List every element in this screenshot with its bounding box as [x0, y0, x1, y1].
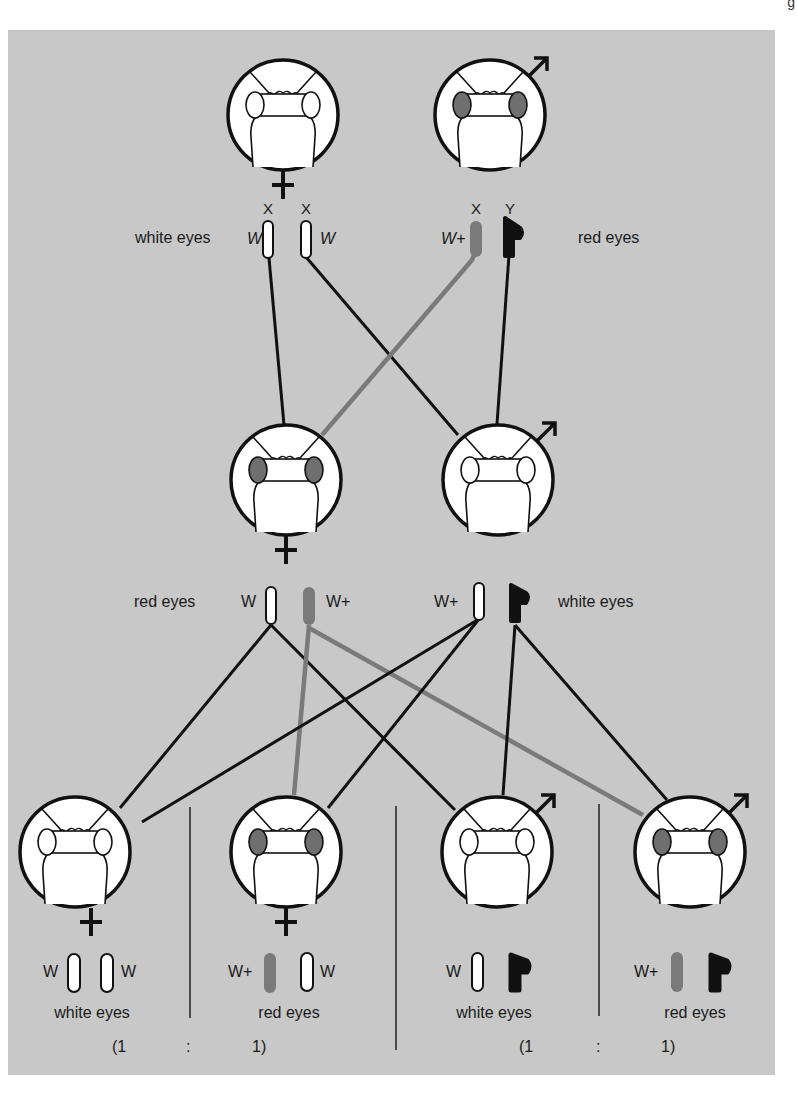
allele-label: W [320, 963, 336, 980]
y-chromosome-icon [711, 955, 729, 990]
eye-icon-white [38, 829, 56, 855]
ratio-label: 1) [661, 1038, 675, 1055]
ratio-separator: : [596, 1038, 600, 1055]
gen3-column-3: W white eyes (1 [446, 953, 533, 1055]
allele-label: W [241, 593, 257, 610]
allele-label: W [320, 230, 337, 247]
male-symbol-icon [528, 58, 547, 77]
chromosome-label-y: Y [505, 200, 515, 217]
phenotype-label: red eyes [134, 593, 195, 610]
male-symbol-icon [535, 795, 554, 814]
allele-label: W+ [441, 230, 465, 247]
female-symbol-icon [272, 171, 294, 199]
allele-label: W [446, 963, 462, 980]
allele-label: W+ [326, 593, 350, 610]
phenotype-label: red eyes [258, 1004, 319, 1021]
x-chromosome-red-icon [303, 587, 315, 625]
x-chromosome-white-icon [472, 953, 483, 991]
line-wplus-to-f2-female [322, 250, 476, 435]
inheritance-lines [120, 250, 667, 822]
female-symbol-icon [275, 536, 297, 564]
gen1-female-fly [228, 60, 338, 199]
allele-label: W+ [634, 963, 658, 980]
eye-icon-red [249, 457, 267, 483]
gen3-column-1: W W white eyes (1 [43, 954, 137, 1055]
gen2-female-fly [231, 425, 341, 564]
eye-icon-white [460, 829, 478, 855]
chromosome-label-x: X [263, 200, 273, 217]
phenotype-label: white eyes [134, 229, 211, 246]
eye-icon-white [516, 829, 534, 855]
female-symbol-icon [275, 908, 297, 936]
ratio-separator: : [186, 1038, 190, 1055]
y-chromosome-icon [511, 955, 529, 990]
ratio-label: (1 [112, 1038, 126, 1055]
gen2-chromosomes: red eyes W W+ W+ white eyes [134, 583, 634, 625]
y-chromosome-icon [505, 218, 522, 256]
allele-label: W [247, 230, 264, 247]
allele-label: W+ [228, 963, 252, 980]
allele-label: W [121, 963, 137, 980]
x-chromosome-white-icon [263, 221, 273, 258]
eye-icon-red [305, 829, 323, 855]
eye-icon-red [653, 829, 671, 855]
x-chromosome-white-icon [301, 953, 313, 991]
eye-icon-white [94, 829, 112, 855]
male-symbol-icon [536, 423, 555, 442]
allele-label: W+ [434, 593, 458, 610]
allele-label: W [43, 963, 59, 980]
y-chromosome-icon [511, 585, 528, 621]
x-chromosome-white-icon [68, 954, 80, 992]
gen1-male-fly [435, 58, 547, 170]
ratio-label: 1) [252, 1038, 266, 1055]
eye-icon-red [305, 457, 323, 483]
chromosome-label-x: X [471, 200, 481, 217]
male-symbol-icon [728, 795, 747, 814]
line-w-to-f2-female [269, 258, 284, 425]
phenotype-label: white eyes [557, 593, 634, 610]
x-chromosome-white-icon [474, 583, 484, 620]
eye-icon-red [509, 92, 527, 118]
gen3-female-red-fly [231, 797, 341, 936]
eye-icon-white [461, 457, 479, 483]
eye-icon-red [453, 92, 471, 118]
x-chromosome-red-icon [671, 952, 683, 992]
x-chromosome-white-icon [266, 587, 276, 624]
female-symbol-icon [80, 908, 102, 936]
chromosome-label-x: X [301, 200, 311, 217]
gen3-column-2: W+ W red eyes 1) [228, 953, 336, 1055]
line-y-to-f2-male [497, 255, 509, 424]
phenotype-label: white eyes [455, 1004, 532, 1021]
ratio-label: (1 [519, 1038, 533, 1055]
gen2-male-fly [443, 423, 555, 535]
eye-icon-white [246, 92, 264, 118]
x-chromosome-red-icon [264, 953, 276, 993]
eye-icon-red [709, 829, 727, 855]
gen3-male-white-fly [442, 795, 554, 907]
eye-icon-red [249, 829, 267, 855]
gen3-male-red-fly [635, 795, 747, 907]
inheritance-diagram: X X X Y white eyes W W W+ red eyes red e… [0, 0, 797, 1103]
x-chromosome-white-icon [301, 221, 311, 258]
eye-icon-white [302, 92, 320, 118]
x-chromosome-red-icon [470, 221, 482, 257]
gen3-female-white-fly [20, 797, 130, 936]
gen1-chromosomes: X X X Y white eyes W W W+ red eyes [134, 200, 639, 258]
phenotype-label: white eyes [53, 1004, 130, 1021]
eye-icon-white [517, 457, 535, 483]
x-chromosome-white-icon [101, 954, 113, 992]
phenotype-label: red eyes [578, 229, 639, 246]
gen3-column-4: W+ red eyes 1) [634, 952, 729, 1055]
phenotype-label: red eyes [664, 1004, 725, 1021]
line-w-to-f2-male [306, 257, 458, 435]
